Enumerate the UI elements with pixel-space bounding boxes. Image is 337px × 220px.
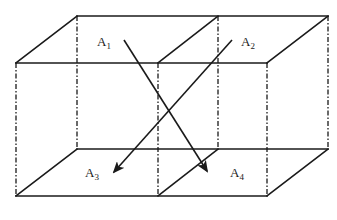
- label-a4: A4: [230, 165, 244, 182]
- bottom-right-edge: [267, 149, 328, 196]
- top-face: [16, 16, 328, 63]
- bottom-left-edge: [16, 149, 77, 196]
- box-diagram: A1 A2 A3 A4: [0, 0, 337, 220]
- top-left-edge: [16, 16, 77, 63]
- top-divider-edge: [158, 16, 218, 63]
- label-a2: A2: [241, 34, 255, 51]
- top-right-edge: [267, 16, 328, 63]
- label-a3: A3: [85, 165, 99, 182]
- bottom-divider-edge: [158, 149, 218, 196]
- label-a1: A1: [97, 34, 111, 51]
- arrow-a1-to-a4: [124, 40, 207, 171]
- bottom-face: [16, 149, 328, 196]
- labels: A1 A2 A3 A4: [85, 34, 255, 182]
